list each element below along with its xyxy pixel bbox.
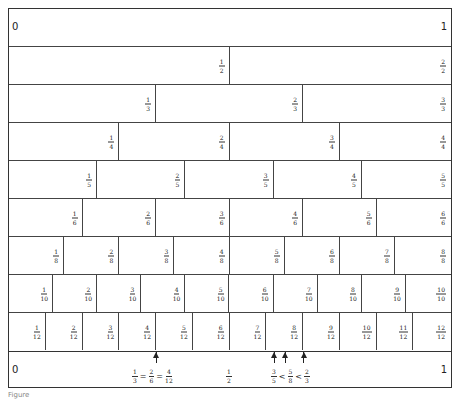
fraction-cell: 28 <box>64 237 119 274</box>
fraction-label: 13 <box>132 369 138 384</box>
fraction-cell: 812 <box>266 313 303 350</box>
fraction-label: 12 <box>226 369 232 384</box>
fraction-label: 1112 <box>399 324 409 339</box>
fraction-cell: 56 <box>303 199 377 236</box>
numerator: 8 <box>350 286 356 294</box>
denominator: 5 <box>87 180 91 187</box>
bottom-number-line: 0 1 13=26=4121235<58<23 <box>9 351 451 387</box>
row-8ths: 1828384858687888 <box>9 236 451 274</box>
denominator: 12 <box>363 332 371 339</box>
denominator: 5 <box>264 180 268 187</box>
numerator: 1 <box>41 286 47 294</box>
denominator: 6 <box>367 218 371 225</box>
fraction-label: 1010 <box>436 286 446 301</box>
operator: < <box>279 372 286 381</box>
fraction-cell: 36 <box>156 199 230 236</box>
numerator: 10 <box>362 324 372 332</box>
fraction-label: 38 <box>164 248 170 263</box>
denominator: 12 <box>437 332 445 339</box>
denominator: 12 <box>33 332 41 339</box>
numerator: 5 <box>218 286 224 294</box>
numerator: 6 <box>329 248 335 256</box>
fraction-cell: 910 <box>362 275 406 312</box>
numerator: 2 <box>149 369 155 377</box>
bottom-zero-label: 0 <box>12 364 18 375</box>
numerator: 8 <box>291 324 297 332</box>
numerator: 3 <box>130 286 136 294</box>
numerator: 1 <box>219 58 225 66</box>
denominator: 12 <box>217 332 225 339</box>
denominator: 3 <box>305 377 309 384</box>
comparison-annotation: 35<58<23 <box>271 369 310 384</box>
fraction-label: 12 <box>219 58 225 73</box>
denominator: 10 <box>217 294 225 301</box>
fraction-label: 46 <box>292 210 298 225</box>
fraction-label: 510 <box>217 286 225 301</box>
fraction-label: 712 <box>254 324 262 339</box>
fraction-cell: 612 <box>193 313 230 350</box>
row-10ths: 1102103104105106107108109101010 <box>9 274 451 312</box>
numerator: 4 <box>219 248 225 256</box>
denominator: 5 <box>352 180 356 187</box>
fraction-label: 310 <box>129 286 137 301</box>
fraction-label: 25 <box>175 172 181 187</box>
denominator: 8 <box>165 256 169 263</box>
numerator: 4 <box>292 210 298 218</box>
numerator: 5 <box>288 369 294 377</box>
fraction-label: 910 <box>393 286 401 301</box>
denominator: 2 <box>227 377 231 384</box>
fraction-label: 78 <box>384 248 390 263</box>
fraction-cell: 12 <box>9 47 230 84</box>
denominator: 10 <box>85 294 93 301</box>
figure-caption: Figure <box>8 391 29 399</box>
fraction-cell: 410 <box>141 275 185 312</box>
numerator: 2 <box>304 369 310 377</box>
fraction-label: 44 <box>440 134 446 149</box>
fraction-label: 56 <box>366 210 372 225</box>
denominator: 8 <box>441 256 445 263</box>
denominator: 10 <box>305 294 313 301</box>
top-zero-label: 0 <box>12 21 18 32</box>
arrow-up-icon <box>156 352 157 363</box>
fraction-cell: 610 <box>230 275 274 312</box>
fraction-label: 58 <box>288 369 294 384</box>
denominator: 10 <box>129 294 137 301</box>
fraction-cell: 44 <box>340 123 450 160</box>
fraction-cell: 710 <box>274 275 318 312</box>
numerator: 1 <box>72 210 78 218</box>
denominator: 6 <box>150 377 154 384</box>
fraction-label: 26 <box>145 210 151 225</box>
fraction-label: 15 <box>86 172 92 187</box>
fraction-label: 810 <box>349 286 357 301</box>
numerator: 4 <box>174 286 180 294</box>
fraction-cell: 1010 <box>406 275 450 312</box>
denominator: 8 <box>109 256 113 263</box>
fraction-cell: 68 <box>285 237 340 274</box>
fraction-label: 28 <box>108 248 114 263</box>
numerator: 2 <box>175 172 181 180</box>
numerator: 11 <box>399 324 409 332</box>
fraction-label: 110 <box>40 286 48 301</box>
fraction-label: 66 <box>440 210 446 225</box>
denominator: 10 <box>40 294 48 301</box>
fraction-label: 1012 <box>362 324 372 339</box>
fraction-cell: 14 <box>9 123 119 160</box>
denominator: 8 <box>220 256 224 263</box>
numerator: 9 <box>328 324 334 332</box>
fraction-label: 55 <box>440 172 446 187</box>
fraction-label: 24 <box>219 134 225 149</box>
numerator: 5 <box>181 324 187 332</box>
denominator: 3 <box>441 104 445 111</box>
denominator: 2 <box>441 66 445 73</box>
fraction-label: 210 <box>85 286 93 301</box>
numerator: 3 <box>440 96 446 104</box>
fraction-cell: 38 <box>119 237 174 274</box>
numerator: 6 <box>218 324 224 332</box>
denominator: 12 <box>327 332 335 339</box>
fraction-label: 312 <box>107 324 115 339</box>
numerator: 2 <box>292 96 298 104</box>
denominator: 2 <box>220 66 224 73</box>
top-band: 0 1 <box>9 9 451 46</box>
fraction-cell: 46 <box>230 199 304 236</box>
fraction-cell: 26 <box>83 199 157 236</box>
